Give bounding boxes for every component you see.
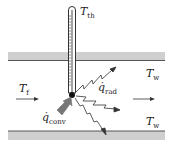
thermometer-temp-label: Tth xyxy=(80,6,95,17)
wall-temp-top-label: Tw xyxy=(146,68,159,79)
fluid-temp-label: Tf xyxy=(19,83,29,94)
convection-heat-label: q̇conv xyxy=(42,112,66,123)
diagram-canvas: Tth Tw Tw Tf q̇rad q̇conv xyxy=(0,0,172,147)
top-wall xyxy=(8,52,165,61)
wall-temp-bottom-label: Tw xyxy=(146,116,159,127)
thermometer-icon xyxy=(69,7,76,94)
flow-arrow-left xyxy=(16,97,39,101)
radiation-heat-label: q̇rad xyxy=(98,82,117,93)
radiation-arrows xyxy=(75,67,120,135)
flow-arrow-right xyxy=(133,97,155,101)
bottom-wall xyxy=(8,131,165,140)
thermometer-bulb xyxy=(69,92,75,98)
